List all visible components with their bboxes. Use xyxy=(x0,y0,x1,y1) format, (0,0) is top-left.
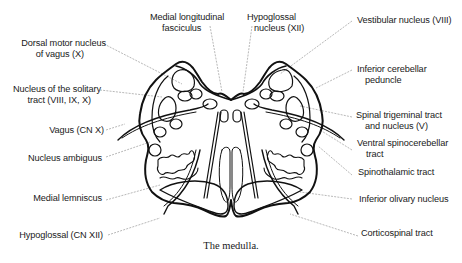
label-line: Nucleus of the solitary xyxy=(0,84,101,95)
label-line: Inferior olivary nucleus xyxy=(359,194,449,205)
label-vagus-nerve: Vagus (CN X) xyxy=(0,125,104,136)
label-nucleus-ambiguus: Nucleus ambiguus xyxy=(0,153,102,164)
label-line: Spinal trigeminal tract xyxy=(356,110,442,121)
label-line: Medial lemniscus xyxy=(0,193,102,204)
label-line: peduncle xyxy=(357,75,427,86)
label-ventral-spinocerebellar: Ventral spinocerebellar tract xyxy=(357,138,448,160)
label-line: nucleus (XII) xyxy=(247,23,304,34)
label-line: Nucleus ambiguus xyxy=(0,153,102,164)
label-medial-longitudinal-fasciculus: Medial longitudinal fasciculus xyxy=(150,12,224,34)
label-line: and nucleus (V) xyxy=(356,121,442,132)
label-hypoglossal-nucleus: Hypoglossal nucleus (XII) xyxy=(247,12,304,34)
label-line: fasciculus xyxy=(150,23,224,34)
label-line: tract xyxy=(357,149,448,160)
label-medial-lemniscus: Medial lemniscus xyxy=(0,193,102,204)
label-line: Medial longitudinal xyxy=(150,12,224,23)
label-spinal-trigeminal: Spinal trigeminal tract and nucleus (V) xyxy=(356,110,442,132)
medulla-diagram: Dorsal motor nucleus of vagus (X) Nucleu… xyxy=(0,0,462,263)
label-nucleus-solitary-tract: Nucleus of the solitary tract (VIII, IX,… xyxy=(0,84,101,106)
label-line: Vestibular nucleus (VIII) xyxy=(357,15,452,26)
label-line: tract (VIII, IX, X) xyxy=(0,95,101,106)
figure-caption: The medulla. xyxy=(0,240,462,251)
label-line: Vagus (CN X) xyxy=(0,125,104,136)
label-inferior-olivary: Inferior olivary nucleus xyxy=(359,194,449,205)
label-line: Corticospinal tract xyxy=(361,228,433,239)
label-spinothalamic: Spinothalamic tract xyxy=(358,167,434,178)
label-line: Hypoglossal xyxy=(247,12,304,23)
label-line: Ventral spinocerebellar xyxy=(357,138,448,149)
label-inferior-cerebellar-peduncle: Inferior cerebellar peduncle xyxy=(357,64,427,86)
label-dorsal-motor-nucleus: Dorsal motor nucleus of vagus (X) xyxy=(8,38,106,60)
label-line: Dorsal motor nucleus xyxy=(8,38,106,49)
label-corticospinal: Corticospinal tract xyxy=(361,228,433,239)
label-vestibular-nucleus: Vestibular nucleus (VIII) xyxy=(357,15,452,26)
label-line: of vagus (X) xyxy=(8,49,106,60)
label-line: Spinothalamic tract xyxy=(358,167,434,178)
label-line: Inferior cerebellar xyxy=(357,64,427,75)
